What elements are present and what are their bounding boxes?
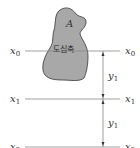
axis-label-right-x0: x0 — [125, 45, 135, 58]
axis-label-left-x1: x1 — [10, 93, 20, 106]
axis-label-left-x0: x0 — [10, 45, 20, 58]
arrow-down-icon — [102, 142, 105, 146]
axis-label-right-x1: x1 — [125, 93, 135, 106]
dimension-label-2: y1 — [107, 117, 118, 130]
axis-label-left-x2: x2 — [10, 141, 20, 148]
area-label: A — [65, 18, 73, 29]
arrow-down-icon — [102, 94, 105, 98]
parallel-axis-diagram: A 도심축 x0 x1 x2 x0 x1 x2 y1 y1 — [0, 0, 140, 148]
arrow-up-icon — [102, 52, 105, 56]
dimension-label-1: y1 — [107, 70, 118, 83]
arrow-up-icon — [102, 100, 105, 104]
axis-label-right-x2: x2 — [125, 141, 135, 148]
centroid-axis-label: 도심축 — [53, 44, 74, 54]
